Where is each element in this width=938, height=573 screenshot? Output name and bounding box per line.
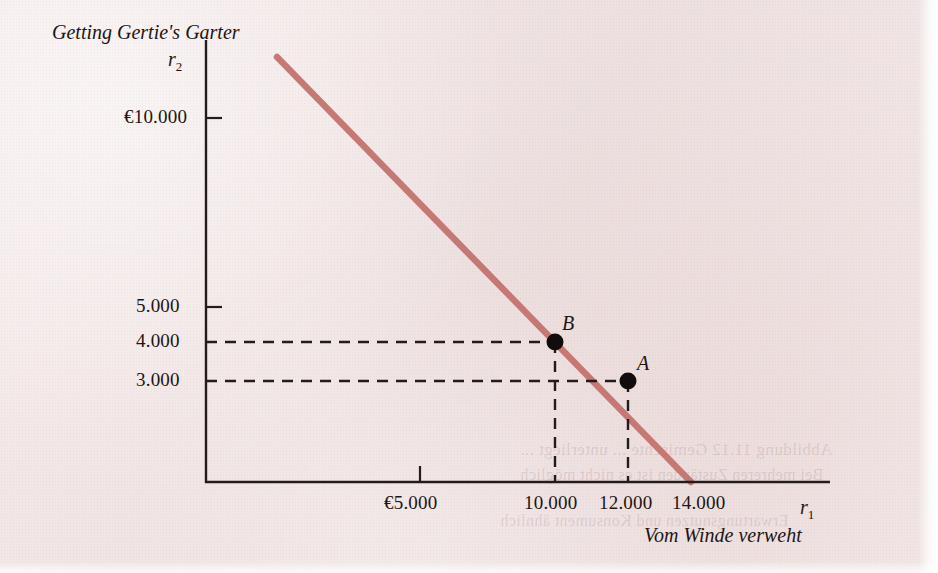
- x-tick-label-5000: €5.000: [384, 492, 437, 514]
- y-axis-variable-label: r2: [168, 48, 182, 75]
- data-point-B-label: B: [562, 312, 574, 335]
- figure-page: Abbildung 11.12 Gemischte ... unterliegt…: [0, 0, 938, 573]
- x-tick-label-12000: 12.000: [599, 492, 652, 514]
- x-tick-label-14000: 14.000: [672, 492, 725, 514]
- x-axis-variable-subscript: 1: [808, 507, 815, 522]
- y-tick-label-3000: 3.000: [136, 369, 180, 391]
- y-axis-variable-letter: r: [168, 48, 176, 70]
- y-tick-label-10000: €10.000: [124, 106, 187, 128]
- data-point-A-label: A: [637, 352, 649, 375]
- y-tick-label-4000: 4.000: [136, 330, 180, 352]
- x-axis-variable-label: r1: [800, 496, 814, 523]
- y-axis-variable-subscript: 2: [176, 59, 183, 74]
- data-point-A-marker: [620, 373, 637, 390]
- data-point-B-marker: [547, 334, 564, 351]
- budget-line: [277, 57, 691, 482]
- x-axis-series-name: Vom Winde verweht: [644, 524, 802, 547]
- y-tick-label-5000: 5.000: [136, 295, 180, 317]
- y-axis-series-name: Getting Gertie's Garter: [52, 20, 212, 46]
- x-tick-label-10000: 10.000: [524, 492, 577, 514]
- x-axis-variable-letter: r: [800, 496, 808, 518]
- chart-plot-area: [0, 0, 938, 573]
